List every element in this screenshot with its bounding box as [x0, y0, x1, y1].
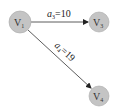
edge-label-v1-v4: a4=19 — [52, 39, 78, 64]
edge-v1-v4: a4=19 — [28, 30, 91, 88]
node-v4: V4 — [89, 86, 109, 106]
node-v1: V1 — [9, 11, 31, 33]
graph-diagram: a3=10 a4=19 V1 V3 V4 — [0, 0, 114, 111]
edge-label-v1-v3: a3=10 — [47, 8, 71, 20]
edge-v1-v3: a3=10 — [31, 8, 88, 22]
node-v3: V3 — [89, 12, 109, 32]
